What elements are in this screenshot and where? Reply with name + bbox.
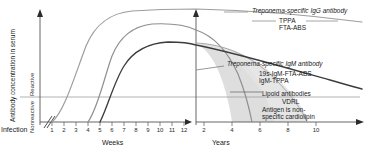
- tick-week-2: 2: [59, 127, 69, 133]
- annotation-igg-title: Treponema-specific IgG antibody: [252, 7, 347, 14]
- annotation-lipoid-note-line2: specific cardiolipin: [262, 113, 315, 120]
- annotation-igm-test-igmtppa: IgM-TPPA: [259, 77, 289, 84]
- annotation-lipoid-note-line1: Antigen is non-: [262, 106, 305, 113]
- tick-week-4: 4: [83, 127, 93, 133]
- y-axis-years: [193, 9, 199, 125]
- origin-infection-label: Infection: [1, 126, 27, 134]
- tick-year-8: 8: [283, 127, 293, 133]
- y-zone-nonreactive-label: Nonreactive: [29, 101, 35, 133]
- x-axis-years-label: Years: [212, 139, 230, 147]
- tick-week-6: 6: [107, 127, 117, 133]
- y-axis-weeks: [37, 9, 43, 125]
- tick-week-9: 9: [143, 127, 153, 133]
- annotation-igg-test-tppa: TPPA: [279, 17, 296, 24]
- tick-year-6: 6: [255, 127, 265, 133]
- tick-week-5: 5: [95, 127, 105, 133]
- tick-week-1: 1: [47, 127, 57, 133]
- y-zone-reactive-label: Reactive: [29, 73, 35, 96]
- tick-week-8: 8: [131, 127, 141, 133]
- annotation-lipoid-title: Lipoid antibodies: [262, 90, 311, 97]
- tick-week-11: 11: [167, 127, 177, 133]
- tick-year-10: 10: [311, 127, 321, 133]
- figure-canvas: Antibody concentration in serum Reactive…: [0, 0, 370, 154]
- tick-week-7: 7: [119, 127, 129, 133]
- annotation-lipoid-test-vdrl: VDRL: [282, 98, 299, 105]
- x-axis-weeks-label: Weeks: [102, 139, 123, 147]
- tick-year-2: 2: [199, 127, 209, 133]
- tick-week-3: 3: [71, 127, 81, 133]
- annotation-igg-test-ftaabs: FTA-ABS: [279, 24, 306, 31]
- annotation-igm-title: Treponema-specific IgM antibody: [227, 60, 323, 67]
- y-axis-label: Antibody concentration in serum: [9, 29, 16, 122]
- x-axis-weeks: [40, 119, 192, 126]
- tick-week-12: 12: [179, 127, 189, 133]
- tick-week-10: 10: [155, 127, 165, 133]
- tick-year-4: 4: [227, 127, 237, 133]
- annotation-igm-test-19s: 19s-IgM-FTA-ABS: [259, 70, 312, 77]
